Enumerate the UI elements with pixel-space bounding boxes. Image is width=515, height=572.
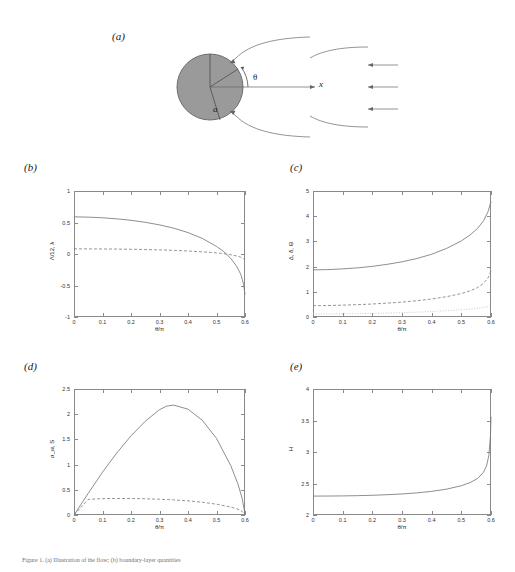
y-tick-label-c: 4: [287, 213, 309, 219]
x-tick-d: [245, 389, 246, 393]
y-tick-label-c: 5: [287, 188, 309, 194]
curve-c-δ: [313, 271, 491, 306]
x-tick-e: [491, 389, 492, 393]
x-tick-label-e: 0.1: [339, 517, 347, 523]
y-tick-label-d: 0.5: [48, 487, 70, 493]
plot-panel-b: 00.10.20.30.40.50.6-1-0.500.51θ/πΛ/12, λ: [74, 191, 245, 317]
x-tick-label-b: 0.4: [184, 319, 192, 325]
x-tick-label-e: 0.6: [487, 517, 495, 523]
figure-root: (a): [0, 0, 515, 572]
x-axis-label-b: θ/π: [155, 326, 164, 332]
x-tick-label-e: 0.5: [458, 517, 466, 523]
x-tick-label-e: 0.2: [369, 517, 377, 523]
y-tick-b: [74, 317, 78, 318]
y-tick-label-b: -1: [48, 314, 70, 320]
x-tick-b: [245, 191, 246, 195]
x-tick-c: [491, 191, 492, 195]
x-tick-label-c: 0.2: [369, 319, 377, 325]
y-axis-label-b: Λ/12, λ: [49, 221, 55, 281]
x-tick-label-d: 0.5: [213, 517, 221, 523]
x-tick-label-b: 0: [72, 319, 75, 325]
x-tick-label-b: 0.1: [99, 319, 107, 325]
y-axis-label-d: σ_w, S: [49, 419, 55, 479]
x-axis-symbol: x: [319, 79, 323, 89]
x-axis-label-d: θ/π: [155, 524, 164, 530]
y-tick-label-b: -0.5: [48, 283, 70, 289]
y-tick-label-d: 0: [48, 512, 70, 518]
y-axis-label-e: H: [288, 419, 294, 479]
panel-label-c: (c): [290, 161, 302, 173]
y-tick-d: [241, 515, 245, 516]
x-tick-label-b: 0.2: [127, 319, 135, 325]
plot-panel-d: 00.10.20.30.40.50.600.511.522.5θ/πσ_w, S: [74, 389, 245, 515]
x-axis-label-e: θ/π: [397, 524, 406, 530]
x-tick-label-d: 0: [72, 517, 75, 523]
schematic-svg: [110, 25, 410, 150]
y-tick-c: [487, 317, 491, 318]
curve-layer-b: [74, 191, 245, 317]
y-tick-c: [313, 317, 317, 318]
x-tick-b: [245, 313, 246, 317]
x-tick-label-d: 0.3: [156, 517, 164, 523]
x-tick-label-c: 0: [311, 319, 314, 325]
x-tick-label-e: 0: [311, 517, 314, 523]
x-tick-label-c: 0.1: [339, 319, 347, 325]
curve-layer-e: [313, 389, 491, 515]
x-tick-label-e: 0.4: [428, 517, 436, 523]
curve-d-S: [74, 498, 245, 515]
freestream-arrows: [368, 63, 398, 111]
figure-caption: Figure 1. (a) Illustration of the flow; …: [22, 556, 492, 564]
y-tick-e: [313, 515, 317, 516]
x-tick-label-b: 0.3: [156, 319, 164, 325]
x-tick-label-c: 0.3: [398, 319, 406, 325]
x-tick-label-c: 0.4: [428, 319, 436, 325]
x-tick-label-d: 0.4: [184, 517, 192, 523]
y-tick-label-d: 2.5: [48, 386, 70, 392]
y-tick-label-d: 2: [48, 411, 70, 417]
y-tick-d: [74, 515, 78, 516]
streamline-upper-outer: [310, 47, 368, 58]
plot-panel-e: 00.10.20.30.40.50.622.533.54θ/πH: [313, 389, 491, 515]
x-tick-label-d: 0.2: [127, 517, 135, 523]
curve-layer-d: [74, 389, 245, 515]
panel-label-b: (b): [24, 161, 37, 173]
curve-layer-c: [313, 191, 491, 317]
y-tick-e: [487, 515, 491, 516]
x-tick-label-b: 0.5: [213, 319, 221, 325]
x-tick-label-c: 0.5: [458, 319, 466, 325]
y-axis-label-c: Δ, δ, Θ: [288, 221, 294, 281]
y-tick-label-e: 2: [287, 512, 309, 518]
x-tick-e: [491, 511, 492, 515]
plot-panel-c: 00.10.20.30.40.50.6012345θ/πΔ, δ, Θ: [313, 191, 491, 317]
x-tick-label-c: 0.6: [487, 319, 495, 325]
curve-b-λ: [74, 249, 245, 260]
x-tick-label-e: 0.3: [398, 517, 406, 523]
y-tick-label-b: 1: [48, 188, 70, 194]
y-tick-label-e: 2.5: [287, 481, 309, 487]
y-tick-label-e: 4: [287, 386, 309, 392]
curve-c-Δ: [313, 202, 491, 270]
streamline-lower: [236, 116, 310, 137]
y-tick-b: [241, 317, 245, 318]
streamline-upper: [236, 37, 310, 58]
x-axis-label-c: θ/π: [397, 326, 406, 332]
panel-label-e: (e): [290, 360, 302, 372]
curve-b-Λ/12: [74, 217, 245, 295]
x-tick-label-d: 0.1: [99, 517, 107, 523]
curve-c-Θ: [313, 306, 491, 314]
theta-symbol: θ: [253, 72, 257, 82]
y-tick-label-c: 1: [287, 289, 309, 295]
x-tick-c: [491, 313, 492, 317]
streamline-lower-outer: [310, 116, 368, 127]
schematic-cylinder-flow: θ a x: [110, 25, 410, 150]
radius-symbol: a: [213, 104, 218, 114]
panel-label-d: (d): [24, 360, 37, 372]
x-tick-label-b: 0.6: [241, 319, 249, 325]
curve-e-H: [313, 417, 491, 496]
x-axis-arrowhead: [310, 85, 315, 89]
x-tick-label-d: 0.6: [241, 517, 249, 523]
y-tick-label-c: 0: [287, 314, 309, 320]
